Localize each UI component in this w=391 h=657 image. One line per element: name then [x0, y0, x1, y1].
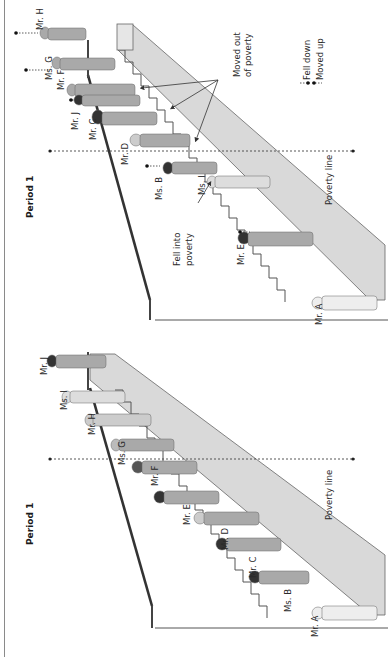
person-label-mr-a: Mr. A — [314, 304, 324, 325]
person-label-mr-j: Mr. J — [39, 357, 49, 375]
person-label-mr-a: Mr. A — [310, 616, 320, 637]
person-label-ms-g: Ms. G — [117, 441, 127, 465]
person-label-mr-f: Mr. F — [56, 70, 66, 90]
top-landing — [117, 24, 133, 50]
person-label-mr-j: Mr. J — [70, 112, 80, 130]
panel-top: Poverty line — [14, 8, 388, 325]
poverty-staircase-figure: Poverty line — [0, 0, 391, 657]
poverty-line-start — [48, 457, 51, 460]
person-label-ms-i: Ms. I — [197, 175, 207, 195]
person-label-ms-i: Ms. I — [59, 390, 69, 410]
poverty-line-start — [48, 149, 51, 152]
annotation-moved-out-line2: of poverty — [243, 33, 253, 77]
person-label-mr-c: Mr. C — [88, 119, 98, 140]
panel-title-bottom: Period 1 — [25, 503, 35, 545]
railing — [88, 75, 150, 300]
poverty-line-end — [351, 457, 354, 460]
person-label-mr-e: Mr. E — [236, 244, 246, 265]
person-label-ms-b: Ms. B — [154, 177, 164, 200]
legend-fell-down: Fell down — [302, 40, 312, 80]
person-label-mr-h: Mr. H — [35, 8, 45, 30]
panel-bottom: Poverty line Period 1 Mr. J Ms. I Mr. H … — [25, 352, 388, 637]
person-label-mr-d: Mr. D — [120, 143, 130, 165]
annotation-fell-into-line2: poverty — [184, 233, 194, 266]
annotation-moved-out-line1: Moved out — [232, 32, 242, 77]
person-label-mr-h: Mr. H — [87, 413, 97, 435]
person-label-ms-b: Ms. B — [283, 589, 293, 612]
poverty-line-label: Poverty line — [324, 470, 334, 520]
person-label-mr-c: Mr. C — [248, 557, 258, 578]
person-label-mr-e: Mr. E — [182, 504, 192, 525]
legend: Fell down Moved up — [300, 38, 325, 84]
person-label-mr-d: Mr. D — [220, 528, 230, 550]
annotation-fell-into-line1: Fell into — [172, 233, 182, 266]
person-label-ms-g: Ms. G — [44, 56, 54, 80]
poverty-line-end — [351, 149, 354, 152]
person-label-mr-f: Mr. F — [150, 466, 160, 486]
panel-title-top: Period 1 — [25, 176, 35, 218]
poverty-line-label: Poverty line — [324, 155, 334, 205]
staircase-shade — [90, 354, 385, 615]
legend-moved-up: Moved up — [315, 38, 325, 80]
